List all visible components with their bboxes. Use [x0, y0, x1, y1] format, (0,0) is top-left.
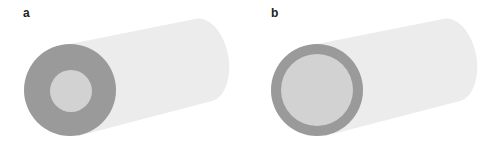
tube-b-lumen	[281, 54, 353, 126]
tube-b	[271, 19, 477, 136]
tube-a	[24, 19, 229, 136]
tube-a-lumen	[50, 70, 92, 112]
diagram-canvas	[0, 0, 481, 143]
